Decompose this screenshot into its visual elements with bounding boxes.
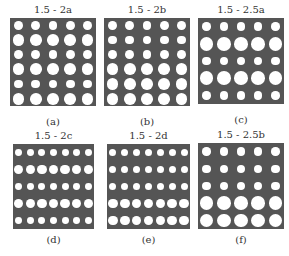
panel-title: 1.5 - 2.5b [198,129,284,141]
panel-caption: (c) [198,114,284,126]
panel-caption: (f) [198,234,284,246]
panel-title: 1.5 - 2a [10,4,96,16]
panel-a: 1.5 - 2a (a) [10,4,96,134]
panel-caption: (d) [13,234,94,246]
panel-d: 1.5 - 2c (d) [13,130,94,256]
panel-b: 1.5 - 2b (b) [104,4,190,134]
panel-e: 1.5 - 2d (e) [107,130,190,256]
panel-caption: (e) [107,234,190,246]
panel-title: 1.5 - 2d [107,130,190,142]
panel-title: 1.5 - 2c [13,130,94,142]
panel-c: 1.5 - 2.5a (c) [198,4,284,134]
panel-caption: (a) [10,116,96,128]
panel-caption: (b) [104,116,190,128]
panel-f: 1.5 - 2.5b (f) [198,129,284,256]
panel-title: 1.5 - 2.5a [198,4,284,16]
panel-title: 1.5 - 2b [104,4,190,16]
